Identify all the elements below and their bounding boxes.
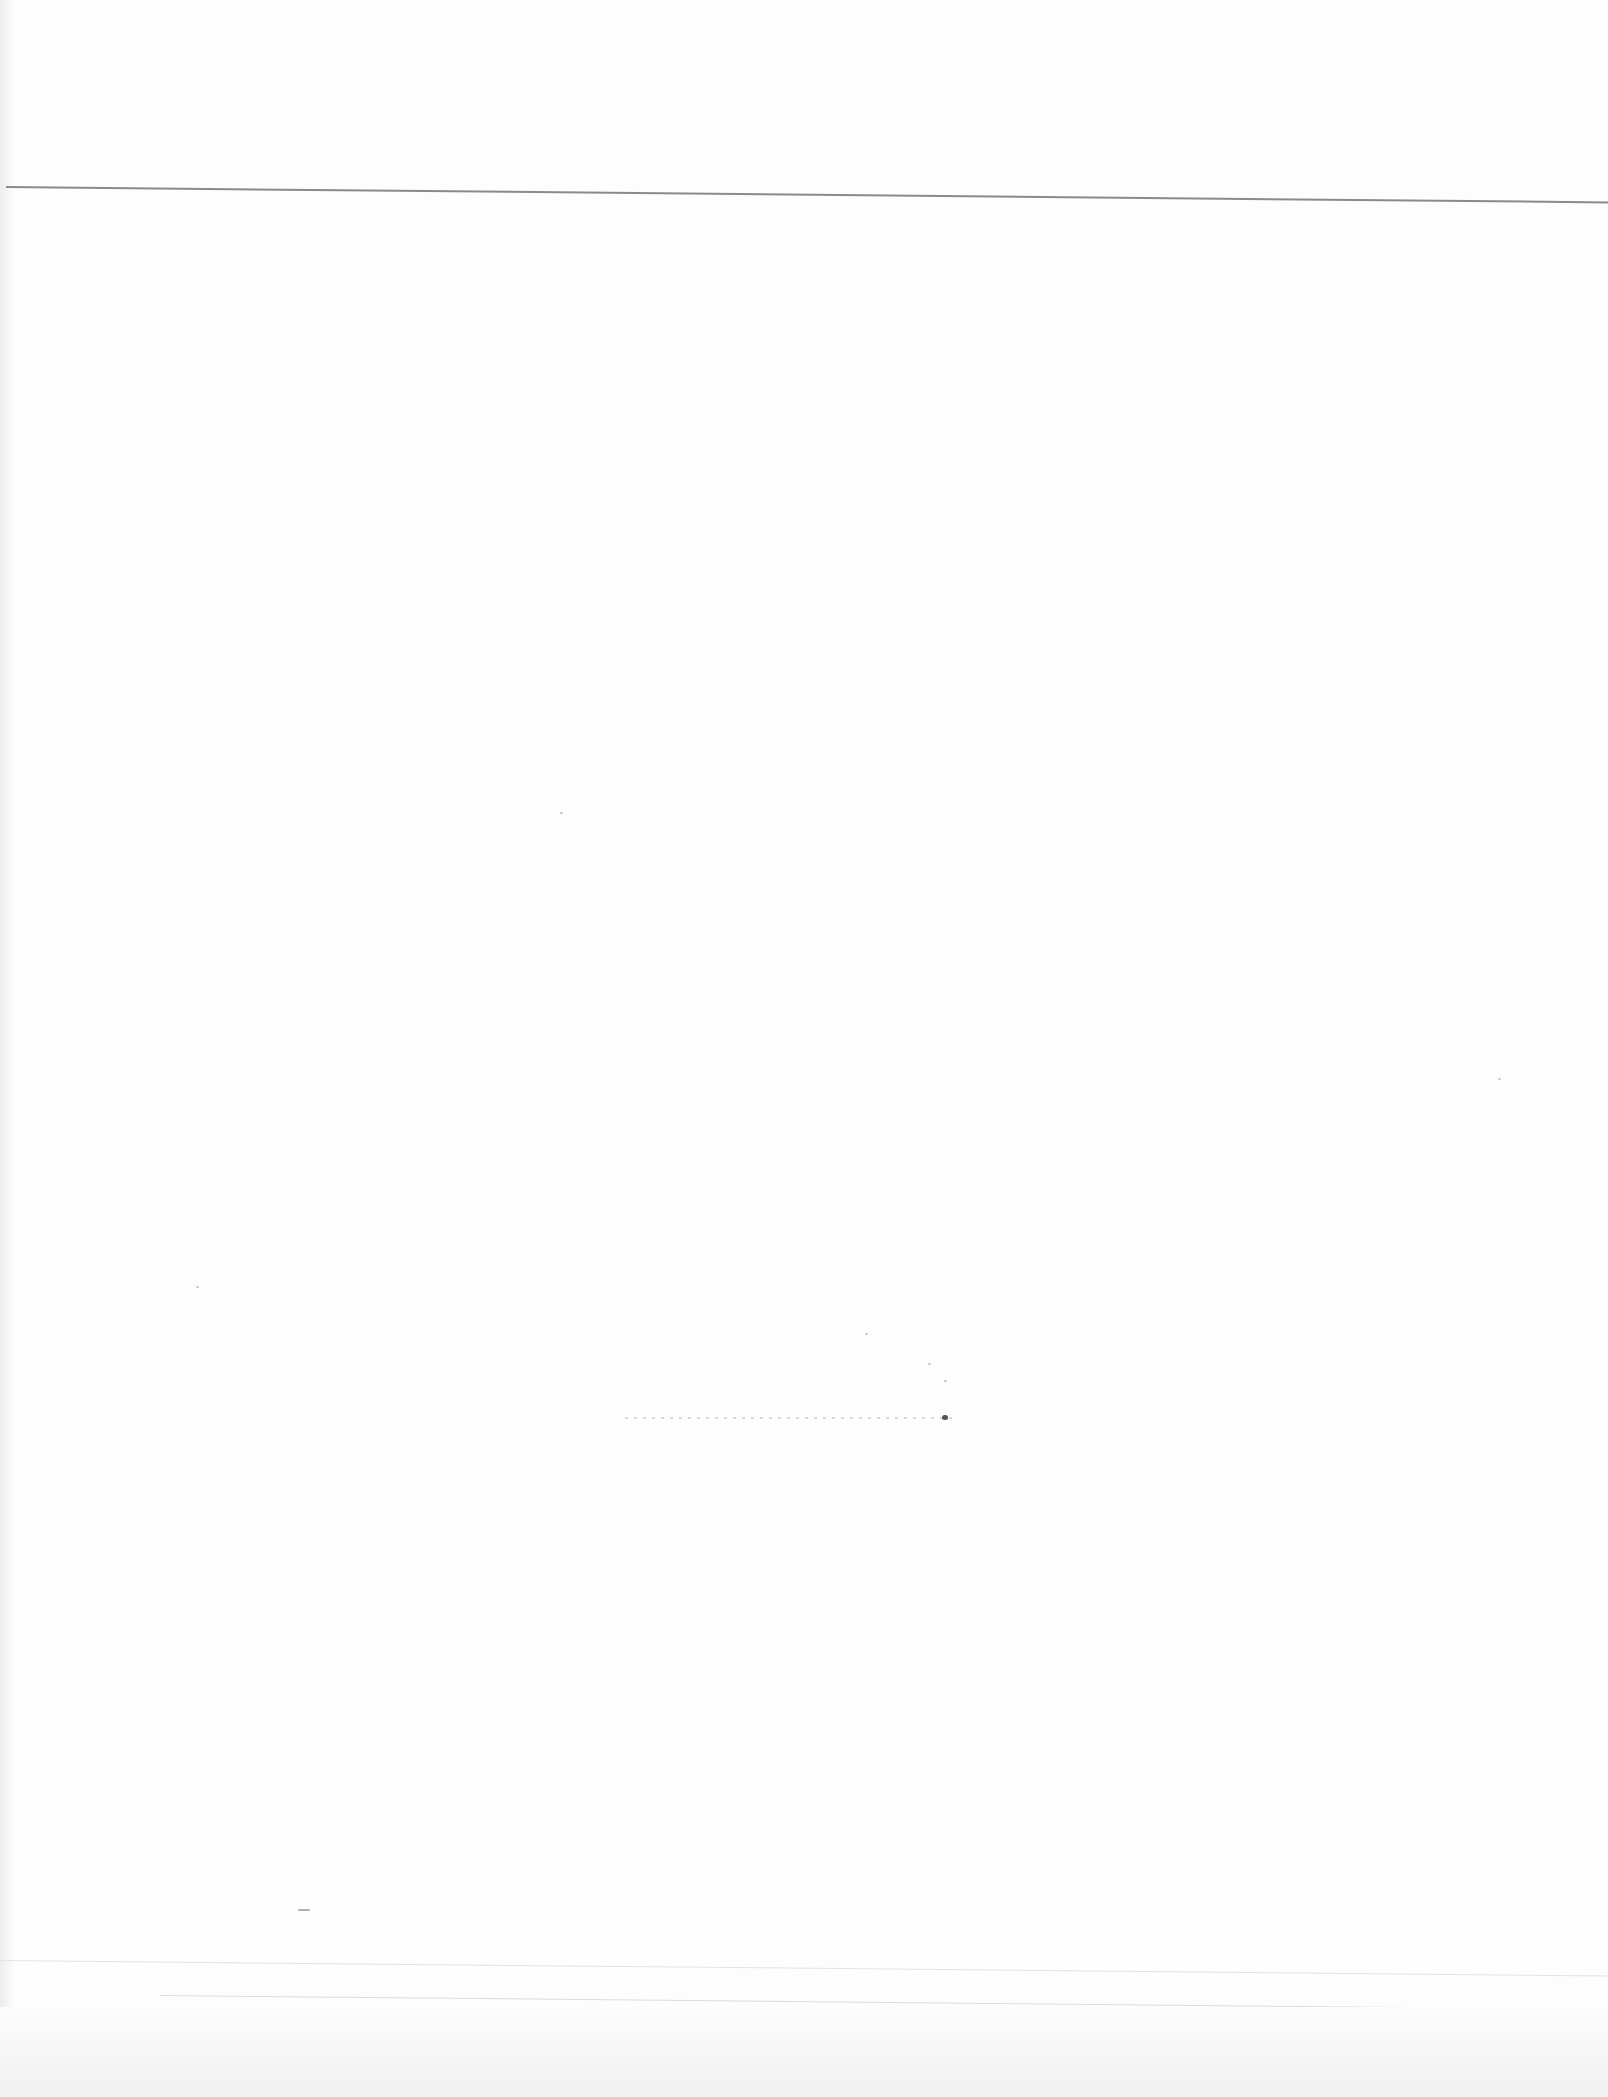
scan-edge-left	[0, 0, 14, 2097]
scan-speck	[928, 1363, 931, 1365]
scan-speck	[560, 812, 563, 814]
scan-speck	[942, 1415, 948, 1420]
scan-speck	[1498, 1078, 1501, 1080]
scan-speck	[298, 1909, 310, 1911]
scan-speck	[865, 1333, 868, 1335]
scan-speck	[944, 1380, 947, 1382]
footer-rule	[0, 1960, 1608, 1976]
scan-edge-bottom	[0, 2007, 1608, 2097]
header-rule	[6, 186, 1608, 203]
scan-noise	[625, 1417, 955, 1419]
scan-speck	[196, 1286, 199, 1288]
